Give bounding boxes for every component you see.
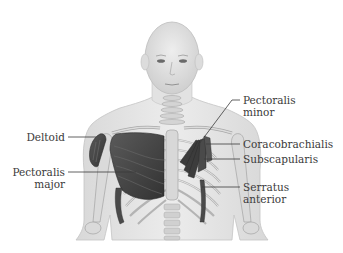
label-deltoid: Deltoid	[26, 131, 65, 143]
label-pectoralis-major: Pectoralis major	[12, 166, 65, 190]
sternum	[164, 130, 180, 240]
head	[141, 22, 203, 94]
label-subscapularis: Subscapularis	[243, 153, 318, 165]
label-serratus-anterior: Serratus anterior	[243, 181, 289, 205]
label-coracobrachialis: Coracobrachialis	[243, 138, 333, 150]
anatomy-diagram: Deltoid Pectoralis major Pectoralis mino…	[0, 0, 343, 253]
torso-illustration	[0, 0, 343, 253]
label-pectoralis-minor: Pectoralis minor	[243, 94, 296, 118]
